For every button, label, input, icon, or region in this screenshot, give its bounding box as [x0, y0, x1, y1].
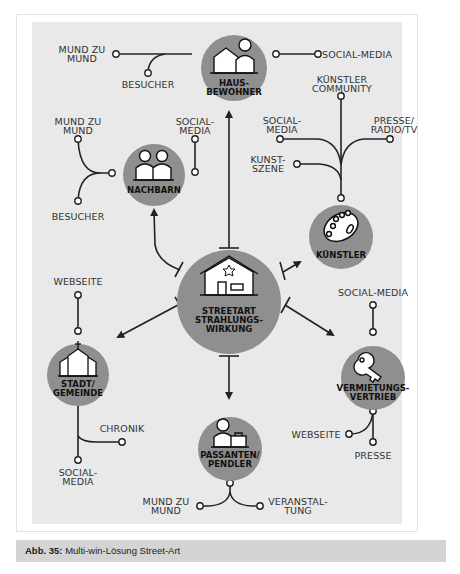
channel-label: WEBSEITE [288, 430, 344, 439]
channel-label: BESUCHER [46, 212, 110, 221]
center-node-label: STREETART STRAHLUNGS- WIRKUNG [189, 307, 269, 334]
channel-label: KUNST- SZENE [244, 155, 292, 173]
channel-label: WEBSEITE [48, 277, 108, 286]
channel-label: MUND ZU MUND [54, 45, 110, 63]
channel-label: SOCIAL-MEDIA [322, 50, 402, 59]
nachbarn-node-label: NACHBARN [124, 186, 184, 195]
channel-label: BESUCHER [116, 80, 180, 89]
channel-label: KÜNSTLER COMMUNITY [300, 75, 384, 93]
channel-label: VERANSTAL- TUNG [266, 497, 330, 515]
caption-prefix: Abb. 35: [25, 545, 62, 556]
figure-caption: Abb. 35: Multi-win-Lösung Street-Art [16, 540, 446, 562]
channel-label: PRESSE/ RADIO/TV [364, 116, 424, 134]
channel-label: MUND ZU MUND [138, 497, 194, 515]
channel-label: SOCIAL- MEDIA [54, 468, 102, 486]
vermietung-node-label: VERMIETUNGS- VERTRIEB [328, 384, 418, 402]
channel-label: SOCIAL- MEDIA [170, 117, 220, 135]
kuenstler-node-label: KÜNSTLER [306, 251, 376, 260]
channel-label: SOCIAL- MEDIA [258, 116, 306, 134]
channel-label: MUND ZU MUND [50, 117, 106, 135]
stadt-node-label: STADT/ GEMEINDE [43, 380, 113, 398]
hausbewohner-node-label: HAUS- BEWOHNER [199, 79, 269, 97]
channel-label: CHRONIK [94, 424, 150, 433]
passanten-node-label: PASSANTEN/ PENDLER [190, 451, 270, 469]
channel-label: SOCIAL-MEDIA [330, 288, 416, 297]
caption-text: Multi-win-Lösung Street-Art [65, 545, 180, 556]
channel-label: PRESSE [349, 451, 397, 460]
